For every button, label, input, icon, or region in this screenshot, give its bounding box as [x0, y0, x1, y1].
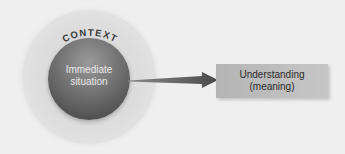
arrow-icon — [128, 72, 218, 92]
understanding-box: Understanding (meaning) — [216, 64, 328, 98]
box-line-1: Understanding — [239, 69, 304, 81]
box-line-2: (meaning) — [249, 81, 294, 93]
immediate-situation-label: Immediate situation — [48, 64, 130, 88]
sphere-line-2: situation — [48, 76, 130, 88]
context-diagram: CONTEXT Immediate situation Understandin… — [0, 0, 345, 154]
sphere-line-1: Immediate — [48, 64, 130, 76]
